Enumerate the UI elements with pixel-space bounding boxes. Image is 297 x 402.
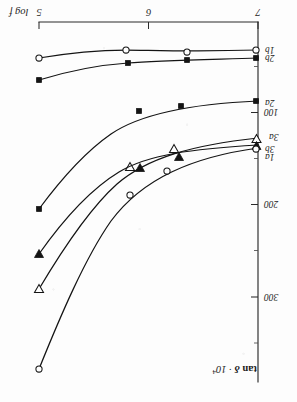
series-1b-point (253, 47, 259, 53)
y-axis-title-mult: · 10 (215, 364, 234, 375)
series-1a-point (253, 146, 259, 152)
series-1a-line (39, 148, 258, 369)
series-2a-point (37, 207, 42, 212)
curve-label-1a: 1a (265, 152, 275, 162)
chart-plot-area: 7 6 5 100 200 300 log f tan δ · 104 (0, 0, 297, 402)
svg-text:tan δ · 104: tan δ · 104 (212, 364, 257, 376)
series-2a-point (179, 104, 184, 109)
series-2b-point (185, 58, 190, 63)
series-2a-point (137, 109, 142, 114)
y-axis-title-main: tan (240, 364, 257, 375)
rotated-figure-stage: 7 6 5 100 200 300 log f tan δ · 104 (0, 0, 297, 402)
series-3b-point (136, 164, 145, 172)
series-1a (36, 146, 259, 372)
x-tick-label-5: 5 (36, 7, 41, 18)
series-2b-line (39, 58, 258, 80)
x-axis (39, 22, 258, 29)
series-3a-line (39, 138, 258, 289)
y-tick-label-300: 300 (264, 292, 280, 302)
y-axis (251, 22, 258, 382)
curve-label-3a: 3a (269, 132, 280, 142)
series-3a-point (35, 285, 44, 293)
series-1a-point (164, 168, 170, 174)
series-1b-point (184, 49, 190, 55)
series-2a-point (254, 99, 259, 104)
curve-label-2a: 2a (265, 98, 275, 108)
x-axis-title: log f (7, 7, 28, 18)
series-2b-point (37, 78, 42, 83)
y-tick-label-100: 100 (264, 107, 279, 117)
chart-svg: 7 6 5 100 200 300 log f tan δ · 104 (0, 0, 297, 402)
x-tick-label-7: 7 (255, 7, 261, 18)
y-axis-title-exponent: 4 (212, 368, 216, 376)
series-2a (37, 99, 259, 212)
curve-label-2b: 2b (265, 53, 275, 63)
series-1a-point (36, 366, 42, 372)
series-3a-point (170, 145, 179, 153)
series-2a-line (39, 101, 258, 209)
y-tick-label-200: 200 (264, 199, 279, 209)
x-tick-labels: 7 6 5 (36, 7, 260, 18)
series-1a-point (127, 192, 133, 198)
series-2b (37, 56, 259, 83)
y-axis-title: tan δ · 104 (212, 364, 257, 376)
series-1b-point (36, 55, 42, 61)
x-tick-label-6: 6 (145, 7, 151, 18)
series-2b-point (126, 61, 131, 66)
series-3b (35, 142, 262, 258)
series-2b-point (254, 56, 259, 61)
series-3a (35, 135, 262, 293)
series-1b-line (39, 50, 258, 58)
series-3b-point (35, 250, 44, 258)
series-1b-point (123, 47, 129, 53)
y-axis-title-symbol: δ (234, 364, 240, 375)
